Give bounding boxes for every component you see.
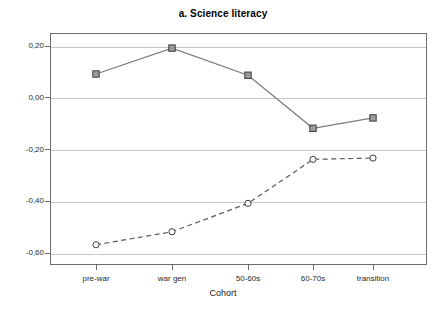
xtick-label-war-gen: war gen bbox=[158, 274, 186, 283]
gridline-y-0 bbox=[51, 47, 426, 48]
gridline-y-3 bbox=[51, 202, 426, 203]
ytick-label-2: -0,20 bbox=[11, 145, 44, 154]
gridline-y-2 bbox=[51, 150, 426, 151]
ytick-mark-3 bbox=[45, 201, 50, 202]
ytick-label-1: 0,00 bbox=[14, 93, 44, 102]
ytick-mark-2 bbox=[45, 149, 50, 150]
ytick-mark-4 bbox=[45, 253, 50, 254]
chart-title: a. Science literacy bbox=[0, 8, 446, 19]
xtick-label-pre-war: pre-war bbox=[82, 274, 109, 283]
ytick-mark-1 bbox=[45, 97, 50, 98]
xtick-mark-1 bbox=[172, 265, 173, 270]
xtick-mark-0 bbox=[96, 265, 97, 270]
chart-container: a. Science literacy 0,20 0,00 -0,20 -0,4… bbox=[0, 0, 446, 312]
plot-area bbox=[50, 33, 427, 265]
x-axis-title: Cohort bbox=[0, 288, 446, 298]
ytick-label-3: -0,40 bbox=[11, 196, 44, 205]
gridline-y-4 bbox=[51, 254, 426, 255]
gridline-y-1 bbox=[51, 98, 426, 99]
ytick-mark-0 bbox=[45, 46, 50, 47]
ytick-label-4: -0,60 bbox=[11, 248, 44, 257]
xtick-label-60-70s: 60-70s bbox=[301, 274, 325, 283]
ytick-label-0: 0,20 bbox=[14, 41, 44, 50]
xtick-label-50-60s: 50-60s bbox=[236, 274, 260, 283]
xtick-mark-3 bbox=[313, 265, 314, 270]
xtick-mark-2 bbox=[248, 265, 249, 270]
xtick-mark-4 bbox=[373, 265, 374, 270]
xtick-label-transition: transition bbox=[357, 274, 389, 283]
